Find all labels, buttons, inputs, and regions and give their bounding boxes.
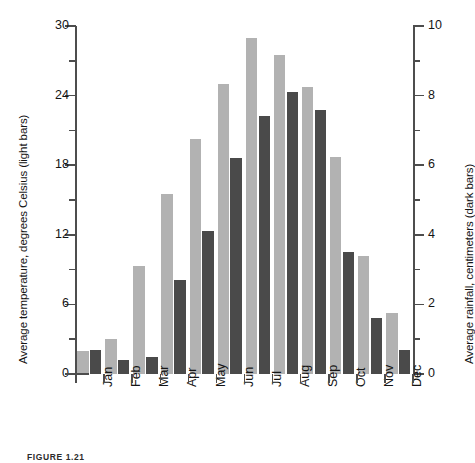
y-right-axis-tick-label: 2 — [428, 296, 435, 310]
bar-temperature-jan — [77, 351, 88, 374]
y-right-axis-tick — [413, 304, 424, 306]
y-right-axis-tick-label: 6 — [428, 157, 435, 171]
y-right-axis-tick — [413, 164, 424, 166]
bar-temperature-apr — [161, 194, 172, 374]
x-axis-tick — [216, 374, 218, 383]
bar-rainfall-jan — [90, 350, 101, 374]
x-axis-tick — [272, 374, 274, 383]
bar-rainfall-dec — [399, 350, 410, 374]
y-right-axis-tick — [413, 338, 420, 340]
x-axis-baseline — [65, 373, 89, 375]
y-right-axis-tick — [413, 199, 420, 201]
x-axis-tick — [188, 374, 190, 383]
x-axis-tick — [328, 374, 330, 383]
x-axis-tick — [160, 374, 162, 383]
y-right-axis-tick — [413, 234, 424, 236]
x-axis-tick — [300, 374, 302, 383]
bar-rainfall-jul — [259, 116, 270, 374]
x-axis-tick — [75, 374, 77, 383]
bar-temperature-oct — [330, 157, 341, 374]
bar-temperature-nov — [358, 256, 369, 374]
bar-rainfall-sep — [315, 110, 326, 374]
bar-rainfall-mar — [146, 357, 157, 374]
y-left-axis-tick-label: 6 — [62, 296, 69, 310]
x-axis-tick — [356, 374, 358, 383]
bar-temperature-jun — [218, 84, 229, 374]
y-axis-right-title: Average rainfall, centimeters (dark bars… — [463, 164, 475, 364]
bar-rainfall-nov — [371, 318, 382, 374]
bar-temperature-aug — [274, 55, 285, 374]
x-axis-tick — [131, 374, 133, 383]
bar-rainfall-jun — [230, 158, 241, 374]
y-right-axis-tick-label: 0 — [428, 366, 435, 380]
y-right-axis-tick-label: 10 — [428, 18, 442, 32]
y-left-axis-tick — [69, 199, 76, 201]
y-right-axis-tick — [413, 269, 420, 271]
bar-rainfall-may — [202, 231, 213, 374]
y-left-axis-tick-label: 18 — [55, 157, 69, 171]
bar-temperature-may — [190, 139, 201, 374]
y-right-axis-tick — [413, 130, 420, 132]
y-left-axis-tick — [69, 130, 76, 132]
bar-rainfall-aug — [287, 92, 298, 374]
y-right-axis-tick — [413, 60, 420, 62]
plot-area: 0612182430 0246810 JanFebMarAprMayJunJul… — [76, 26, 413, 374]
bar-rainfall-oct — [343, 252, 354, 374]
y-left-axis-tick — [69, 338, 76, 340]
y-left-axis-tick-label: 24 — [55, 88, 69, 102]
x-axis-tick — [103, 374, 105, 383]
y-right-axis-tick — [413, 95, 424, 97]
x-axis-tick — [244, 374, 246, 383]
figure-caption: FIGURE 1.21 — [27, 452, 85, 462]
y-right-axis-tick-label: 8 — [428, 88, 435, 102]
bar-temperature-jul — [246, 38, 257, 374]
y-left-axis-tick — [69, 60, 76, 62]
bar-temperature-mar — [133, 266, 144, 374]
bar-rainfall-apr — [174, 280, 185, 374]
y-left-axis-tick — [69, 269, 76, 271]
x-axis-tick — [412, 374, 414, 383]
y-right-axis-tick — [413, 25, 424, 27]
y-left-axis-tick-label: 12 — [55, 227, 69, 241]
y-left-axis-tick-label: 30 — [55, 18, 69, 32]
bar-temperature-sep — [302, 87, 313, 374]
bar-rainfall-feb — [118, 360, 129, 374]
y-right-axis-tick-label: 4 — [428, 227, 435, 241]
y-axis-left-title: Average temperature, degrees Celsius (li… — [17, 115, 29, 364]
x-axis-tick — [384, 374, 386, 383]
